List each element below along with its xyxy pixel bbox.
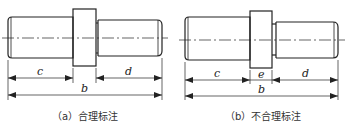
collar bbox=[73, 9, 96, 66]
caption-panel-a: （a）合理标注 bbox=[52, 108, 118, 123]
left-shaft bbox=[8, 17, 73, 58]
label-c: c bbox=[214, 67, 220, 80]
left-shaft bbox=[185, 17, 250, 60]
label-d: d bbox=[125, 65, 132, 78]
collar bbox=[250, 11, 272, 68]
label-b: b bbox=[81, 82, 88, 95]
caption-panel-b: （b）不合理标注 bbox=[225, 108, 301, 123]
label-d: d bbox=[302, 67, 309, 80]
label-e: e bbox=[258, 68, 265, 81]
label-b: b bbox=[258, 83, 265, 96]
label-c: c bbox=[37, 65, 43, 78]
